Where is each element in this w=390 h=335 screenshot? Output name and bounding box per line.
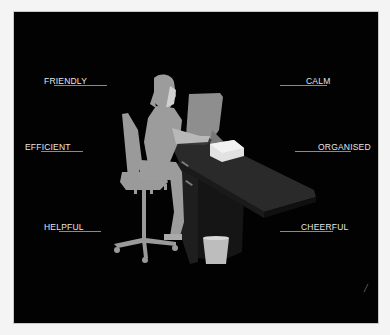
label-rule — [280, 231, 333, 232]
label-rule — [59, 231, 101, 232]
label-rule — [280, 85, 327, 86]
illustration-panel: FRIENDLY EFFICIENT HELPFUL CALM ORGANISE… — [13, 11, 379, 324]
label-rule — [295, 151, 351, 152]
label-rule — [54, 85, 107, 86]
receptionist-illustration — [14, 12, 379, 324]
waste-bin-icon — [203, 236, 229, 264]
label-rule — [41, 151, 83, 152]
